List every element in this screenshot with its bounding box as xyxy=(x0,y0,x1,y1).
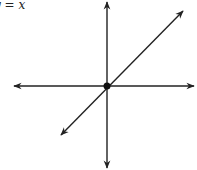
equation-label: y = x xyxy=(0,0,25,12)
origin-point xyxy=(104,83,111,90)
coordinate-diagram xyxy=(0,0,197,170)
line-y-equals-x xyxy=(61,11,183,135)
